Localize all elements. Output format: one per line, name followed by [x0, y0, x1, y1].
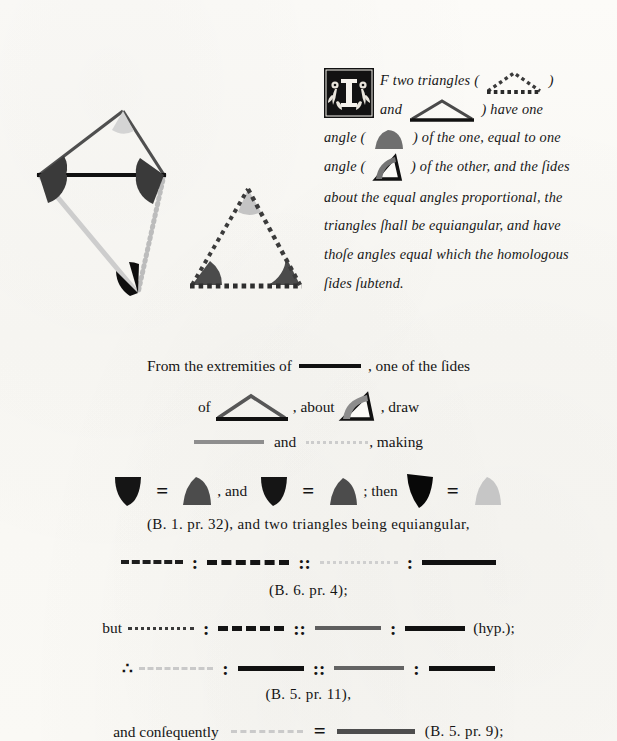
outline-triangle-icon	[406, 97, 478, 123]
proof-line-7-reference: (B. 6. pr. 4);	[0, 579, 617, 601]
segment-black-thick	[429, 666, 495, 671]
therefore-symbol: ∴	[122, 658, 139, 679]
enunciation-text: and	[380, 101, 402, 117]
proof-line-10-reference: (B. 5. pr. 11),	[0, 683, 617, 705]
proof-text: , about	[293, 398, 335, 416]
proof-text: ; then	[361, 482, 404, 500]
proof-text: and conſequently	[113, 723, 231, 741]
left-base-angle-marker-2	[39, 156, 67, 175]
segment-pale-dashed	[231, 730, 303, 733]
segment-black-thick	[422, 560, 496, 565]
segment-black-thick	[405, 626, 465, 631]
ratio-colon: :	[183, 553, 207, 572]
enunciation-line-7: thoſe angles equal which the homologous	[324, 240, 602, 269]
equals-sign: =	[145, 479, 179, 504]
proof-text: From the extremities of	[147, 357, 292, 375]
main-diagram	[22, 48, 202, 342]
proof-line-11-final: and conſequently = (B. 5. pr. 9);	[0, 719, 617, 741]
proportion-sign: ::	[284, 619, 315, 638]
proof-text: , one of the ſides	[368, 357, 470, 375]
outline-triangle-icon	[211, 390, 293, 424]
proof-line-9-conclusion: ∴ : :: :	[0, 657, 617, 679]
enunciation-line-4: angle ( ) of the other, and the ſides	[324, 152, 602, 183]
segment-mid-solid	[334, 666, 404, 670]
proportion-sign: ::	[289, 553, 320, 572]
proof-line-5-reference: (B. 1. pr. 32), and two triangles being …	[0, 513, 617, 535]
segment-mid-solid	[315, 626, 381, 630]
proof-line-8-hypothesis: but : :: : (hyp.);	[0, 617, 617, 639]
enunciation-line-8: ſides ſubtend.	[324, 269, 602, 298]
filled-gray-angle-icon	[369, 126, 409, 152]
angle-marker-darkgray-up-icon	[179, 472, 215, 510]
equals-sign: =	[436, 479, 470, 504]
open-angle-triangle-icon	[335, 389, 381, 425]
angle-marker-black-down-icon	[111, 472, 145, 510]
enunciation-line-5: about the equal angles proportional, the	[324, 183, 602, 212]
enunciation-text: ) have one	[482, 101, 544, 117]
enunciation-text: angle (	[324, 158, 366, 174]
segment-mid-solid	[337, 729, 415, 734]
angle-marker-darkgray-up-icon	[325, 472, 361, 510]
proof-text: , making	[369, 433, 423, 451]
second-right-angle-marker	[268, 257, 300, 285]
open-angle-triangle-icon	[369, 153, 407, 183]
ornate-floral-initial-I-icon	[324, 68, 374, 118]
enunciation-text: )	[549, 72, 554, 88]
segment-pale-dashed	[139, 667, 213, 670]
equals-sign: =	[291, 479, 325, 504]
enunciation-text: ) of the other, and the ſides	[411, 158, 570, 174]
segment-black-thick	[299, 364, 361, 368]
proof-line-1: From the extremities of , one of the ſid…	[0, 355, 617, 377]
segment-dark-dashed-short	[121, 560, 183, 564]
proof-text: of	[198, 398, 211, 416]
enunciation-text: ) of the one, equal to one	[413, 129, 561, 145]
proof-line-2: of , about , draw	[0, 389, 617, 425]
proof-text: (B. 5. pr. 9);	[425, 723, 504, 740]
segment-dark-dashed-heavy	[207, 560, 289, 565]
segment-dark-dashed-heavy	[218, 626, 284, 631]
proof-text: , and	[215, 482, 251, 500]
proof-line-3: and , making	[0, 431, 617, 453]
enunciation-text: F two triangles (	[380, 72, 479, 88]
ratio-colon: :	[404, 659, 428, 678]
second-left-angle-marker	[192, 261, 222, 285]
ratio-colon: :	[381, 619, 405, 638]
segment-fine-dotted	[128, 627, 194, 630]
ratio-colon: :	[398, 553, 422, 572]
segment-mid-solid	[194, 440, 264, 443]
second-left-side	[192, 189, 248, 285]
proof-text: and	[274, 433, 296, 451]
proof-text: , draw	[381, 398, 419, 416]
second-diagram	[176, 180, 326, 309]
angle-marker-lightgray-icon	[470, 472, 506, 510]
proof-line-4-angle-equalities: = , and = ; then =	[0, 471, 617, 511]
segment-pale-dotted	[306, 441, 368, 444]
enunciation-text: angle (	[324, 129, 366, 145]
enunciation-block: F two triangles ( ) and ) have one angle…	[324, 66, 602, 297]
equals-sign: =	[303, 719, 337, 741]
upper-triangle-left-side	[39, 111, 123, 175]
proof-block: From the extremities of , one of the ſid…	[0, 355, 617, 741]
dotted-triangle-icon	[483, 69, 545, 95]
ratio-colon: :	[213, 659, 237, 678]
enunciation-line-3: angle ( ) of the one, equal to one	[324, 123, 602, 152]
proof-text: but	[102, 619, 128, 637]
proof-line-6-proportion: : :: :	[0, 551, 617, 573]
proportion-sign: ::	[304, 659, 335, 678]
enunciation-line-6: triangles ſhall be equiangular, and have	[324, 211, 602, 240]
angle-marker-black-down-icon	[257, 472, 291, 510]
ratio-colon: :	[194, 619, 218, 638]
angle-marker-black-wedge-icon	[404, 471, 436, 511]
segment-pale-dotted	[320, 561, 398, 564]
left-base-angle-marker	[39, 175, 67, 203]
proof-text: (hyp.);	[473, 619, 514, 637]
segment-black-thick	[238, 666, 304, 671]
